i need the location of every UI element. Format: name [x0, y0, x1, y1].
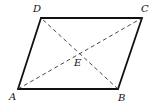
label-b: B — [117, 92, 125, 103]
label-e: E — [73, 57, 82, 68]
side-da — [18, 18, 41, 89]
label-d: D — [32, 3, 41, 14]
label-c: C — [141, 3, 149, 14]
side-bc — [118, 18, 142, 89]
parallelogram-diagram: A B C D E — [0, 0, 149, 105]
label-a: A — [8, 91, 16, 102]
diagonal-bd — [41, 18, 118, 89]
